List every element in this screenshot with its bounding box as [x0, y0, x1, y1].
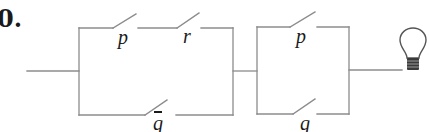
- circuit-diagram: 0.: [0, 0, 429, 132]
- switch-label-q-block2: q: [300, 113, 310, 132]
- switch-label-not-q-block1: q: [153, 113, 163, 132]
- switch-label-r-block1: r: [183, 26, 191, 46]
- switch-label-p-block1: p: [118, 27, 128, 47]
- light-bulb-icon: [400, 28, 426, 70]
- circuit-wiring: [0, 0, 429, 132]
- switch-label-p-block2: p: [296, 26, 306, 46]
